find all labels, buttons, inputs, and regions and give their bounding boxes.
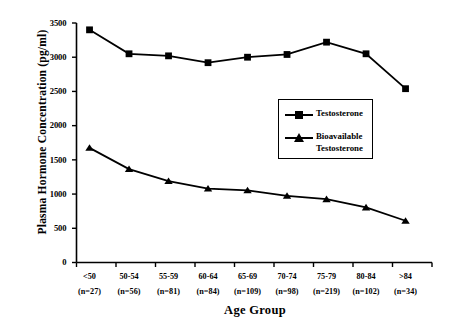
data-point-marker bbox=[205, 59, 212, 66]
x-tick-category: 55-59 bbox=[159, 272, 178, 281]
x-tick-category: 75-79 bbox=[317, 272, 336, 281]
x-tick-category: 80-84 bbox=[356, 272, 375, 281]
y-tick-label: 2500 bbox=[33, 86, 67, 96]
legend-label-bioavailable-line2: Testosterone bbox=[316, 143, 363, 153]
x-tick-label: >84(n=34) bbox=[378, 272, 434, 296]
data-point-marker bbox=[402, 85, 409, 92]
x-tick-category: <50 bbox=[83, 272, 96, 281]
x-tick-category: 70-74 bbox=[277, 272, 296, 281]
square-marker-icon bbox=[285, 109, 313, 120]
y-tick-label: 3000 bbox=[33, 52, 67, 62]
data-point-marker bbox=[85, 144, 93, 151]
data-point-marker bbox=[323, 39, 330, 46]
legend-label-bioavailable: BioavailableTestosterone bbox=[313, 131, 363, 154]
legend-item-testosterone: Testosterone bbox=[285, 108, 363, 120]
x-tick-count: (n=34) bbox=[378, 287, 434, 296]
legend: Testosterone BioavailableTestosterone bbox=[278, 99, 373, 159]
y-tick-label: 1500 bbox=[33, 155, 67, 165]
legend-item-bioavailable-testosterone: BioavailableTestosterone bbox=[285, 131, 363, 154]
y-tick-label: 500 bbox=[33, 223, 67, 233]
x-tick-category: 65-69 bbox=[238, 272, 257, 281]
y-tick-label: 0 bbox=[33, 257, 67, 267]
data-point-marker bbox=[284, 51, 291, 58]
data-point-marker bbox=[363, 50, 370, 57]
chart-figure: Plasma Hormone Concentration (pg/ml) 050… bbox=[0, 0, 455, 328]
triangle-marker-icon bbox=[285, 132, 313, 143]
legend-label-testosterone: Testosterone bbox=[313, 108, 363, 120]
axis-lines bbox=[77, 23, 433, 263]
series-1 bbox=[86, 26, 409, 92]
x-axis-title: Age Group bbox=[75, 303, 435, 318]
y-tick-label: 3500 bbox=[33, 18, 67, 28]
y-tick-label: 1000 bbox=[33, 189, 67, 199]
data-point-marker bbox=[126, 50, 133, 57]
legend-label-bioavailable-line1: Bioavailable bbox=[316, 131, 362, 141]
x-tick-category: 50-54 bbox=[119, 272, 138, 281]
data-point-marker bbox=[86, 26, 93, 33]
x-tick-category: 60-64 bbox=[198, 272, 217, 281]
y-tick-label: 2000 bbox=[33, 120, 67, 130]
x-tick-category: >84 bbox=[399, 272, 412, 281]
data-point-marker bbox=[125, 165, 133, 172]
data-point-marker bbox=[165, 52, 172, 59]
data-point-marker bbox=[244, 54, 251, 61]
